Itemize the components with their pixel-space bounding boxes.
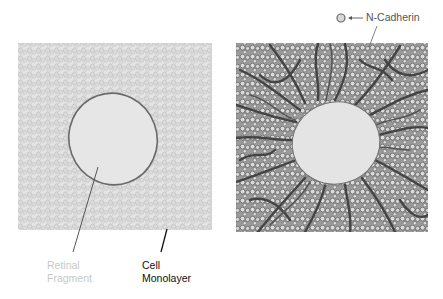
cell-monolayer-label-line2: Monolayer: [142, 272, 191, 285]
right-panel: [236, 43, 428, 232]
cell-monolayer-label: Cell Monolayer: [142, 259, 191, 284]
diagram-canvas: [0, 0, 443, 299]
cell-monolayer-leader: [161, 229, 167, 252]
legend: [337, 14, 363, 22]
left-panel: [18, 43, 212, 230]
cell-monolayer-label-line1: Cell: [142, 259, 191, 272]
circle-icon: [337, 14, 345, 22]
n-cadherin-label: N-Cadherin: [366, 11, 420, 24]
left-arrow-icon: [348, 16, 363, 20]
retinal-fragment-label: Retinal Fragment: [47, 259, 92, 284]
retinal-fragment-label-line2: Fragment: [47, 272, 92, 285]
retinal-fragment-label-line1: Retinal: [47, 259, 92, 272]
